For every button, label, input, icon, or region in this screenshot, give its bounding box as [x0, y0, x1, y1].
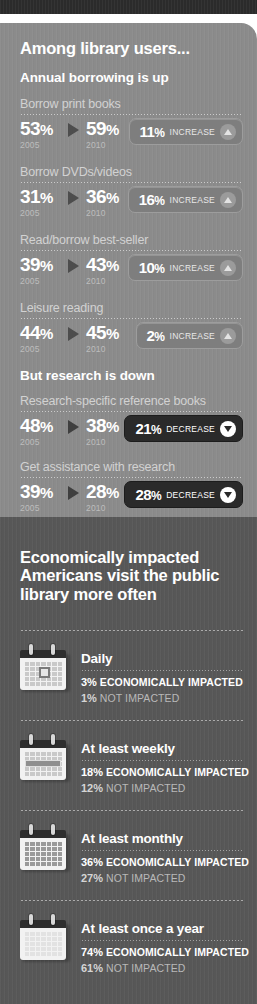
stat-economically-impacted: 18% ECONOMICALLY IMPACTED [81, 765, 243, 781]
subheading-research-down: But research is down [20, 368, 243, 383]
card-title: At least weekly [81, 741, 243, 756]
badge-label: INCREASE [170, 331, 215, 341]
calendar-selected-week [25, 760, 61, 767]
stat-not-impacted: 61% NOT IMPACTED [81, 961, 243, 977]
stat-value: 61% [81, 962, 103, 974]
titlebar-texture [0, 0, 257, 14]
stat-to-value: 43% [86, 255, 134, 274]
page-title: Among library users... [20, 39, 243, 57]
row-label: Research-specific reference books [20, 394, 243, 408]
badge-label: INCREASE [170, 195, 215, 205]
arrow-right-icon [68, 327, 79, 341]
stat-row: 39% 2005 43% 2010 10% INCREASE [20, 255, 243, 289]
stat-from-value: 39% [20, 482, 68, 501]
badge-value: 11% [140, 123, 165, 140]
stat-from: 53% 2005 [20, 119, 68, 150]
arrow-right-icon [68, 191, 79, 205]
stat-group-borrow-print-books: Borrow print books 53% 2005 59% 2010 11% [20, 97, 243, 153]
infographic-page: Among library users... Annual borrowing … [0, 0, 257, 1004]
stat-economically-impacted: 3% ECONOMICALLY IMPACTED [81, 675, 243, 691]
stat-group-reference-books: Research-specific reference books 48% 20… [20, 394, 243, 450]
arrow-right-icon [68, 123, 79, 137]
stat-row: 44% 2005 45% 2010 2% INCREASE [20, 323, 243, 357]
calendar-selected-day [39, 667, 50, 678]
stat-from-year: 2005 [20, 437, 68, 447]
visit-frequency-card-weekly: At least weekly 18% ECONOMICALLY IMPACTE… [20, 720, 243, 797]
row-divider [20, 182, 243, 183]
card-title: At least monthly [81, 831, 243, 846]
stat-value: 74% [81, 946, 103, 958]
badge-value: 10% [139, 259, 165, 276]
stat-label: NOT IMPACTED [100, 692, 180, 704]
calendar-week-icon [20, 732, 70, 782]
row-divider [20, 477, 243, 478]
stat-group-borrow-dvds: Borrow DVDs/videos 31% 2005 36% 2010 16% [20, 165, 243, 221]
arrow-up-icon [220, 328, 236, 344]
economic-impact-panel: Economically impacted Americans visit th… [0, 517, 257, 1004]
stat-label: NOT IMPACTED [106, 782, 186, 794]
change-badge-increase: 11% INCREASE [129, 118, 244, 145]
visit-frequency-card-monthly: At least monthly 36% ECONOMICALLY IMPACT… [20, 810, 243, 887]
stat-from-year: 2005 [20, 503, 68, 513]
section-title-visits: Economically impacted Americans visit th… [20, 548, 243, 603]
card-top-divider [20, 630, 243, 631]
arrow-up-icon [220, 124, 236, 140]
stat-value: 3% [81, 676, 97, 688]
window-titlebar [0, 0, 257, 14]
badge-label: DECREASE [166, 490, 215, 500]
arrow-right-icon [68, 259, 79, 273]
calendar-month-icon [20, 822, 70, 872]
stat-to-value: 45% [86, 323, 134, 342]
badge-value: 2% [147, 327, 165, 344]
stat-from-value: 53% [20, 119, 68, 138]
visit-frequency-card-daily: Daily 3% ECONOMICALLY IMPACTED 1% NOT IM… [20, 630, 243, 707]
badge-value: 28% [135, 486, 161, 503]
row-divider [20, 318, 243, 319]
stat-from-value: 44% [20, 323, 68, 342]
calendar-year-icon [20, 912, 70, 962]
calendar-selected-month [25, 842, 62, 866]
arrow-right-icon [68, 420, 79, 434]
stat-from: 39% 2005 [20, 255, 68, 286]
change-badge-increase: 10% INCREASE [128, 254, 243, 281]
card-title: Daily [81, 651, 243, 666]
stat-from-value: 48% [20, 416, 68, 435]
card-divider [81, 760, 243, 761]
badge-value: 21% [135, 420, 161, 437]
stat-group-research-assistance: Get assistance with research 39% 2005 28… [20, 460, 243, 516]
badge-label: INCREASE [170, 127, 215, 137]
stat-row: 48% 2005 38% 2010 21% DECREASE [20, 416, 243, 450]
stat-not-impacted: 1% NOT IMPACTED [81, 691, 243, 707]
stat-value: 27% [81, 872, 103, 884]
stat-from-value: 39% [20, 255, 68, 274]
library-users-panel: Among library users... Annual borrowing … [0, 23, 257, 517]
stat-to-value: 36% [86, 187, 134, 206]
stat-from-year: 2005 [20, 208, 68, 218]
stat-group-best-seller: Read/borrow best-seller 39% 2005 43% 201… [20, 233, 243, 289]
row-divider [20, 114, 243, 115]
row-label: Borrow DVDs/videos [20, 165, 243, 179]
stat-label: ECONOMICALLY IMPACTED [106, 766, 249, 778]
stat-label: NOT IMPACTED [106, 872, 186, 884]
stat-label: ECONOMICALLY IMPACTED [100, 676, 243, 688]
stat-label: ECONOMICALLY IMPACTED [106, 856, 249, 868]
stat-from: 44% 2005 [20, 323, 68, 354]
stat-pair: 48% 2005 38% 2010 [20, 416, 134, 447]
stat-value: 18% [81, 766, 103, 778]
card-title: At least once a year [81, 921, 243, 936]
stat-pair: 39% 2005 28% 2010 [20, 482, 134, 513]
stat-pair: 31% 2005 36% 2010 [20, 187, 134, 218]
stat-from: 48% 2005 [20, 416, 68, 447]
stat-label: NOT IMPACTED [106, 962, 186, 974]
calendar-faint-grid [25, 932, 62, 956]
calendar-day-icon [20, 642, 70, 692]
stat-from-year: 2005 [20, 140, 68, 150]
stat-value: 12% [81, 782, 103, 794]
stat-to-year: 2010 [86, 344, 134, 354]
badge-value: 16% [139, 191, 165, 208]
row-label: Borrow print books [20, 97, 243, 111]
stat-row: 53% 2005 59% 2010 11% INCREASE [20, 119, 243, 153]
badge-label: DECREASE [166, 424, 215, 434]
row-label: Get assistance with research [20, 460, 243, 474]
stat-not-impacted: 27% NOT IMPACTED [81, 871, 243, 887]
